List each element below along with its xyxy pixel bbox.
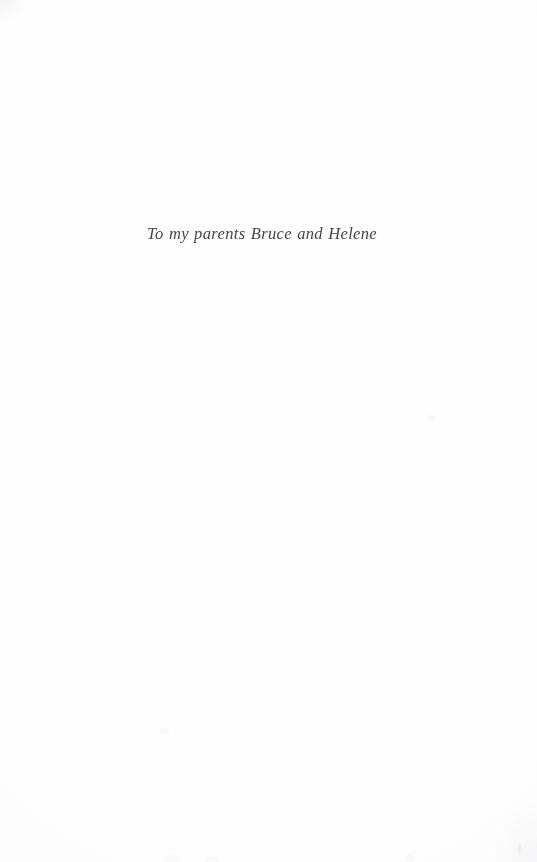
dedication-text: To my parents Bruce and Helene <box>147 224 467 245</box>
scanned-page: To my parents Bruce and Helene <box>0 0 537 862</box>
page-edge-shadow <box>491 802 537 862</box>
page-tone-overlay <box>0 0 537 862</box>
scan-artifact <box>405 855 415 861</box>
scan-artifact <box>163 855 181 862</box>
page-edge-mark <box>518 842 521 858</box>
scan-artifact <box>428 415 435 420</box>
corner-tint <box>0 0 26 20</box>
scan-artifact <box>160 728 169 735</box>
dedication-block: To my parents Bruce and Helene <box>147 224 467 245</box>
scan-artifact <box>205 857 219 862</box>
